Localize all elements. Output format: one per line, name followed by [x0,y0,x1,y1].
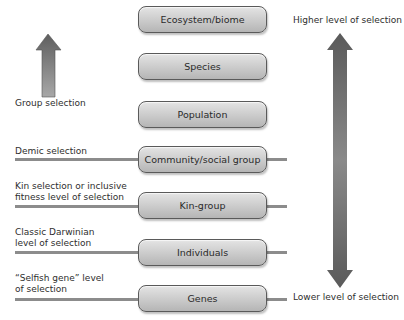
selfish-gene-label-line1: “Selfish gene” level [15,273,104,284]
level-box-community: Community/social group [138,146,267,173]
higher-level-label: Higher level of selection [293,15,402,25]
connector-line-genes-right [267,298,287,301]
level-box-species: Species [138,53,267,80]
group-selection-up-arrow-icon [36,34,61,97]
kin-selection-label-line1: Kin selection or inclusive [15,181,127,192]
connector-line-kin-left [15,205,138,208]
darwinian-label-line2: level of selection [15,238,91,249]
level-box-ecosystem: Ecosystem/biome [138,6,267,33]
kin-selection-label-line2: fitness level of selection [15,192,124,203]
lower-level-label: Lower level of selection [293,292,399,302]
level-label: Species [184,61,221,72]
level-label: Individuals [177,247,228,258]
level-label: Population [178,109,228,120]
darwinian-label-line1: Classic Darwinian [15,227,94,238]
level-label: Community/social group [145,154,261,165]
level-label: Ecosystem/biome [160,14,244,25]
level-box-population: Population [138,101,267,128]
connector-line-community-left [15,158,138,161]
selfish-gene-label-line2: of selection [15,284,67,295]
level-box-kin-group: Kin-group [138,192,267,219]
demic-selection-label: Demic selection [15,146,87,157]
group-selection-label: Group selection [15,98,86,109]
level-label: Kin-group [180,200,226,211]
connector-line-kin-right [267,205,287,208]
connector-line-individuals-left [15,251,138,254]
level-box-individuals: Individuals [138,239,267,266]
connector-line-genes-left [15,298,138,301]
level-label: Genes [187,293,217,304]
level-box-genes: Genes [138,285,267,312]
connector-line-individuals-right [267,251,287,254]
level-scale-double-arrow-icon [327,33,353,288]
connector-line-community-right [267,158,287,161]
